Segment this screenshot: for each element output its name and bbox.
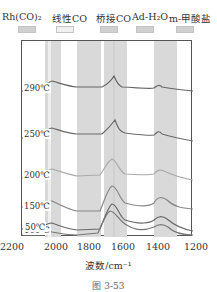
series-label-250: 250℃	[23, 129, 51, 139]
x-tick-1400: 1400	[146, 241, 170, 252]
legend-swatch-ad-h2o	[136, 26, 154, 33]
legend-swatch-rhco2	[18, 26, 36, 33]
series-label-150: 150℃	[23, 201, 51, 211]
legend-label-ad-h2o: Ad-H₂O	[132, 11, 168, 22]
legend-label-bridged-co: 桥接CO	[96, 11, 131, 25]
x-axis-label: 波数/cm⁻¹	[0, 258, 217, 272]
legend: Rh(CO)₂ 线性CO 桥接CO Ad-H₂O m-甲酸盐	[0, 11, 217, 35]
figure-caption: 图 3-53	[0, 279, 217, 292]
legend-label-rhco2: Rh(CO)₂	[2, 11, 42, 22]
x-tick-2200: 2200	[0, 241, 24, 252]
plot-area: 290℃ 250℃ 200℃ 150℃ 100℃	[21, 40, 192, 236]
legend-swatch-m-formate	[176, 26, 194, 33]
series-label-50: 50℃	[24, 222, 46, 232]
legend-swatch-bridged-co	[100, 26, 118, 33]
x-tick-1200: 1200	[184, 241, 208, 252]
series-label-200: 200℃	[23, 170, 51, 180]
x-tick-1600: 1600	[111, 241, 135, 252]
legend-label-linear-co: 线性CO	[52, 11, 87, 25]
legend-label-m-formate: m-甲酸盐	[169, 11, 211, 25]
x-tick-2000: 2000	[44, 241, 68, 252]
x-tick-1800: 1800	[77, 241, 101, 252]
series-label-290: 290℃	[23, 83, 51, 93]
legend-swatch-linear-co	[56, 26, 74, 33]
